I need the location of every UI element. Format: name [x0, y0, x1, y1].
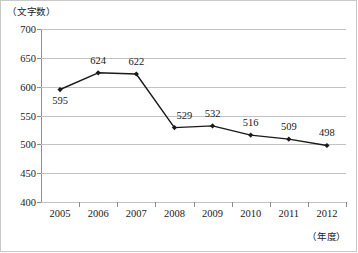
y-tick-label-650: 650: [20, 52, 36, 63]
y-tick-mark-700: [37, 29, 41, 30]
gridline-y-450: [41, 173, 346, 174]
y-tick-mark-500: [37, 144, 41, 145]
gridline-y-500: [41, 144, 346, 145]
y-tick-label-550: 550: [20, 110, 36, 121]
y-tick-mark-650: [37, 58, 41, 59]
x-tick-label-2010: 2010: [240, 208, 261, 219]
x-tick-mark-2010: [232, 202, 233, 207]
y-tick-label-500: 500: [20, 139, 36, 150]
y-tick-mark-400: [37, 202, 41, 203]
x-tick-label-2006: 2006: [88, 208, 109, 219]
gridline-y-650: [41, 58, 346, 59]
x-tick-mark-2008: [155, 202, 156, 207]
x-tick-mark-end: [346, 202, 347, 207]
gridline-y-700: [41, 29, 346, 30]
x-tick-mark-2009: [194, 202, 195, 207]
data-label-2010: 516: [243, 117, 259, 128]
y-tick-label-700: 700: [20, 24, 36, 35]
x-axis-unit-label: （年度）: [307, 229, 346, 243]
y-tick-label-450: 450: [20, 168, 36, 179]
y-tick-label-400: 400: [20, 197, 36, 208]
y-axis-unit-label: （文字数）: [7, 4, 56, 18]
x-tick-mark-2012: [308, 202, 309, 207]
data-label-2012: 498: [319, 127, 335, 138]
y-tick-mark-450: [37, 173, 41, 174]
y-tick-mark-600: [37, 87, 41, 88]
data-label-2006: 624: [90, 55, 106, 66]
data-label-2007: 622: [128, 56, 144, 67]
x-tick-label-2011: 2011: [279, 208, 300, 219]
gridline-y-600: [41, 87, 346, 88]
data-label-2008: 529: [177, 110, 193, 121]
x-tick-label-2008: 2008: [164, 208, 185, 219]
plot-area: 700650600550500450400: [41, 29, 346, 202]
data-label-2005: 595: [52, 95, 68, 106]
x-tick-label-2009: 2009: [202, 208, 223, 219]
data-label-2009: 532: [205, 108, 221, 119]
y-tick-mark-550: [37, 116, 41, 117]
x-tick-mark-2006: [79, 202, 80, 207]
x-tick-mark-2011: [270, 202, 271, 207]
x-tick-mark-2007: [117, 202, 118, 207]
data-label-2011: 509: [281, 121, 297, 132]
x-tick-label-2007: 2007: [126, 208, 147, 219]
chart-figure: （文字数） （年度） 700650600550500450400 2005200…: [0, 0, 357, 252]
x-tick-label-2012: 2012: [316, 208, 337, 219]
gridline-y-550: [41, 116, 346, 117]
y-tick-label-600: 600: [20, 81, 36, 92]
x-tick-label-2005: 2005: [50, 208, 71, 219]
